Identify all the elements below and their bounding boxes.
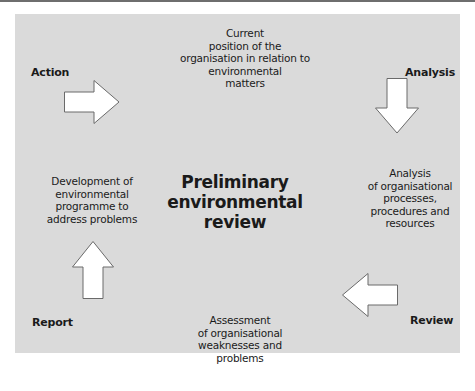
node-line: resources [355, 217, 465, 230]
node-line: programme to [22, 200, 162, 213]
node-line: weaknesses and [180, 339, 300, 352]
arrow-right-icon [64, 80, 120, 124]
arrow-left-icon [342, 273, 398, 317]
node-development-of-programme: Development of environmental programme t… [22, 175, 162, 225]
node-line: organisation in relation to [160, 52, 330, 65]
top-rule [0, 0, 475, 2]
node-line: environmental [160, 65, 330, 78]
node-line: environmental [22, 188, 162, 201]
center-title-line: environmental [160, 192, 310, 212]
node-line: address problems [22, 213, 162, 226]
arrow-down-icon [375, 78, 419, 134]
node-line: processes, [355, 192, 465, 205]
node-line: matters [160, 77, 330, 90]
node-line: Development of [22, 175, 162, 188]
node-line: problems [180, 352, 300, 365]
arrow-up-icon [72, 241, 114, 299]
label-review: Review [410, 314, 453, 327]
node-line: Current [160, 27, 330, 40]
center-title-line: review [160, 212, 310, 232]
node-analysis-of-processes: Analysis of organisational processes, pr… [355, 167, 465, 230]
center-title-line: Preliminary [160, 172, 310, 192]
node-line: procedures and [355, 205, 465, 218]
node-line: position of the [160, 40, 330, 53]
node-current-position: Current position of the organisation in … [160, 27, 330, 90]
node-line: of organisational [180, 327, 300, 340]
node-line: Assessment [180, 314, 300, 327]
node-assessment-of-weaknesses: Assessment of organisational weaknesses … [180, 314, 300, 364]
node-line: Analysis [355, 167, 465, 180]
node-line: of organisational [355, 180, 465, 193]
label-report: Report [32, 316, 73, 329]
label-action: Action [31, 66, 69, 79]
center-title: Preliminary environmental review [160, 172, 310, 232]
